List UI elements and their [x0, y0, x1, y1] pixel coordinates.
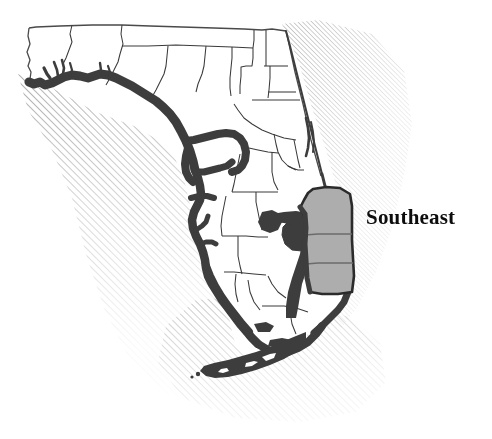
southeast-region-label: Southeast — [366, 207, 455, 228]
florida-region-map-figure: Southeast — [0, 0, 492, 439]
southeast-region[interactable] — [300, 187, 354, 294]
